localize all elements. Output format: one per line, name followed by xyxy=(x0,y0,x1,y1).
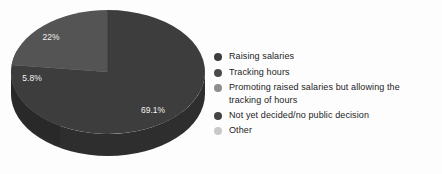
legend-item-label: Other xyxy=(229,124,252,137)
legend-item-label: Promoting raised salaries but allowing t… xyxy=(229,81,434,106)
pie-label-tracking-hours: 22% xyxy=(42,32,59,42)
pie-slice-tracking-hours xyxy=(12,10,108,72)
legend-item-label: Tracking hours xyxy=(229,66,290,79)
legend-marker-icon xyxy=(214,112,222,120)
pie-chart: 22% 5.8% 69.1% Raising salaries Tracking… xyxy=(0,0,442,174)
pie-label-raising-salaries: 69.1% xyxy=(141,105,166,115)
chart-legend: Raising salaries Tracking hours Promotin… xyxy=(214,50,442,140)
pie-label-promoting-raised-salaries: 5.8% xyxy=(22,73,42,83)
legend-item-label: Not yet decided/no public decision xyxy=(229,109,369,122)
legend-item-other[interactable]: Other xyxy=(214,124,442,137)
pie-svg: 22% 5.8% 69.1% xyxy=(0,0,215,174)
pie-top-faces xyxy=(11,10,205,134)
legend-marker-icon xyxy=(214,69,222,77)
legend-marker-icon xyxy=(214,53,222,61)
legend-marker-icon xyxy=(214,127,222,135)
pie-graphic-area: 22% 5.8% 69.1% xyxy=(0,0,215,174)
legend-marker-icon xyxy=(214,84,222,92)
legend-item-tracking-hours[interactable]: Tracking hours xyxy=(214,66,442,79)
legend-item-not-yet-decided[interactable]: Not yet decided/no public decision xyxy=(214,109,442,122)
legend-item-label: Raising salaries xyxy=(229,50,294,63)
legend-item-raising-salaries[interactable]: Raising salaries xyxy=(214,50,442,63)
legend-item-promoting-raised-salaries[interactable]: Promoting raised salaries but allowing t… xyxy=(214,81,442,106)
